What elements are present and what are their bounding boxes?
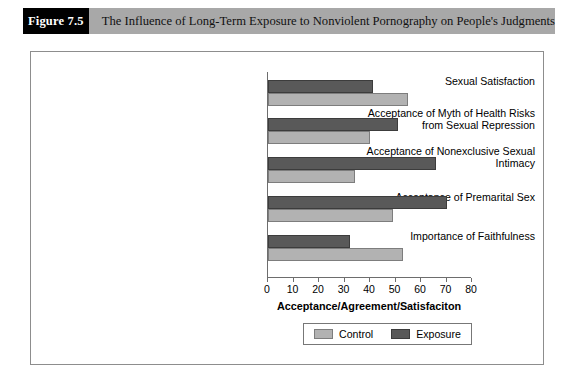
- x-tick-10: [293, 278, 294, 282]
- x-tick-label-50: 50: [383, 283, 407, 295]
- legend-swatch-control-icon: [314, 329, 333, 339]
- bar-exposure-1[interactable]: [268, 118, 398, 131]
- x-tick-70: [446, 278, 447, 282]
- bar-exposure-3[interactable]: [268, 196, 447, 209]
- bar-control-3[interactable]: [268, 209, 393, 222]
- bar-control-2[interactable]: [268, 170, 355, 183]
- legend-label-exposure: Exposure: [416, 328, 461, 340]
- figure-number-box: Figure 7.5: [23, 8, 89, 34]
- legend-item-exposure[interactable]: Exposure: [391, 328, 461, 340]
- x-tick-label-70: 70: [434, 283, 458, 295]
- x-tick-label-60: 60: [408, 283, 432, 295]
- figure-number-label: Figure 7.5: [28, 14, 84, 29]
- x-tick-label-20: 20: [306, 283, 330, 295]
- x-tick-label-10: 10: [281, 283, 305, 295]
- x-tick-40: [369, 278, 370, 282]
- figure-caption: The Influence of Long-Term Exposure to N…: [89, 8, 555, 34]
- bar-exposure-0[interactable]: [268, 80, 373, 93]
- plot-area: 01020304050607080: [267, 72, 471, 277]
- figure-header-band: Figure 7.5 The Influence of Long-Term Ex…: [23, 8, 555, 34]
- x-tick-60: [420, 278, 421, 282]
- x-tick-label-40: 40: [357, 283, 381, 295]
- x-tick-50: [395, 278, 396, 282]
- x-tick-30: [344, 278, 345, 282]
- x-axis-title: Acceptance/Agreement/Satisfaciton: [267, 300, 471, 312]
- chart-frame: Sexual Satisfaction Acceptance of Myth o…: [30, 51, 544, 365]
- x-tick-20: [318, 278, 319, 282]
- x-tick-0: [267, 278, 268, 282]
- x-tick-label-0: 0: [255, 283, 279, 295]
- chart-legend: Control Exposure: [303, 323, 472, 345]
- legend-item-control[interactable]: Control: [314, 328, 373, 340]
- bar-control-1[interactable]: [268, 131, 370, 144]
- legend-swatch-exposure-icon: [391, 329, 410, 339]
- x-tick-label-80: 80: [459, 283, 483, 295]
- bar-exposure-4[interactable]: [268, 235, 350, 248]
- x-tick-80: [471, 278, 472, 282]
- bar-control-0[interactable]: [268, 93, 408, 106]
- legend-label-control: Control: [339, 328, 373, 340]
- bar-exposure-2[interactable]: [268, 157, 436, 170]
- bar-control-4[interactable]: [268, 248, 403, 261]
- x-tick-label-30: 30: [332, 283, 356, 295]
